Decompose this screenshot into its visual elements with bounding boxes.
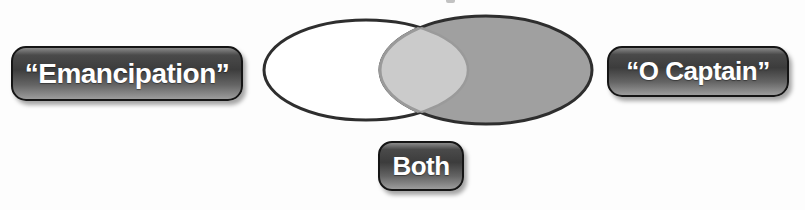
left-set-label: “Emancipation” xyxy=(11,46,243,101)
left-set-label-text: “Emancipation” xyxy=(25,58,230,90)
intersection-label-text: Both xyxy=(392,151,449,182)
venn-diagram-figure: “Emancipation” “O Captain” Both xyxy=(0,0,805,210)
right-set-label-text: “O Captain” xyxy=(626,56,769,87)
scan-artifact-mark xyxy=(446,0,455,3)
right-set-label: “O Captain” xyxy=(607,46,789,97)
intersection-label: Both xyxy=(378,141,464,191)
